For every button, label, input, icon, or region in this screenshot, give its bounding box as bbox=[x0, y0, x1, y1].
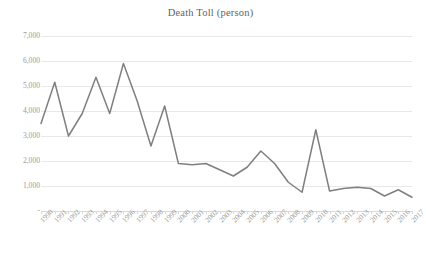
x-axis-tick-label: 2017 bbox=[409, 208, 426, 225]
x-axis-tick-label: 2014 bbox=[368, 208, 385, 225]
